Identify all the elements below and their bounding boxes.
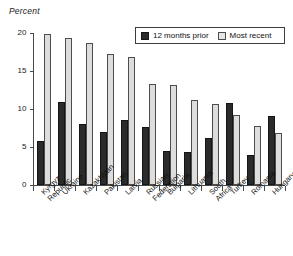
bar	[254, 126, 261, 185]
bar-group	[33, 33, 54, 185]
bar	[191, 100, 198, 185]
y-tick-label: 15	[18, 66, 27, 75]
bar	[44, 34, 51, 185]
y-tick-label: 5	[22, 142, 26, 151]
bar-group	[264, 33, 285, 185]
bar	[65, 38, 72, 185]
bar-group	[222, 33, 243, 185]
bar-group	[180, 33, 201, 185]
y-axis-label: Percent	[9, 6, 40, 16]
bar	[128, 57, 135, 185]
legend-label: Most recent	[230, 31, 272, 40]
bar	[142, 127, 149, 185]
bar	[86, 43, 93, 185]
y-tick-label: 0	[22, 180, 26, 189]
bar-group	[54, 33, 75, 185]
legend-swatch-light-icon	[218, 32, 226, 40]
bar-group	[138, 33, 159, 185]
bar-group	[201, 33, 222, 185]
bar-group	[96, 33, 117, 185]
bar-group	[117, 33, 138, 185]
bar-groups	[33, 33, 285, 185]
bar-group	[243, 33, 264, 185]
legend-label: 12 months prior	[153, 31, 209, 40]
bar-chart: Percent 05101520 KyrgyzRepublicUkraineKa…	[0, 0, 293, 256]
legend-item-1: Most recent	[218, 31, 272, 40]
chart-legend: 12 months prior Most recent	[135, 27, 285, 44]
x-axis-labels: KyrgyzRepublicUkraineKazakhstanPakistanL…	[33, 191, 285, 253]
plot-area	[33, 33, 285, 185]
bar	[37, 141, 44, 185]
x-tick	[33, 186, 34, 191]
bar	[233, 115, 240, 185]
bar	[226, 103, 233, 185]
legend-swatch-dark-icon	[141, 32, 149, 40]
bar-group	[75, 33, 96, 185]
bar-group	[159, 33, 180, 185]
legend-item-0: 12 months prior	[141, 31, 209, 40]
bar	[149, 84, 156, 185]
y-tick-label: 10	[18, 104, 27, 113]
y-tick-label: 20	[18, 28, 27, 37]
